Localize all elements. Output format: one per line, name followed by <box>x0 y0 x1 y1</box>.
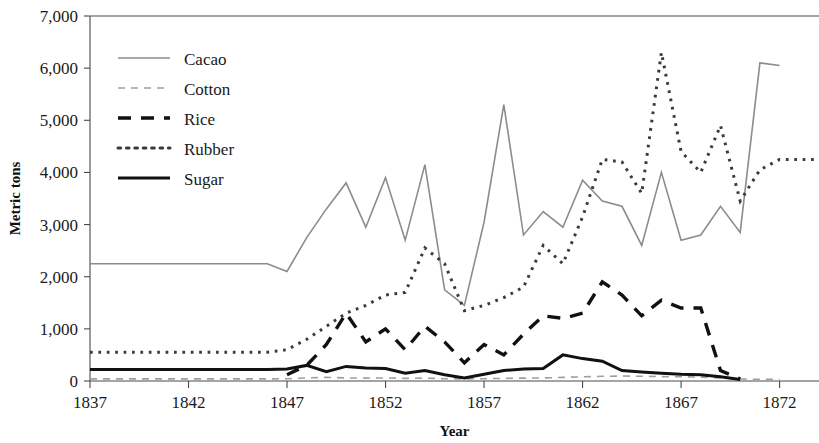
legend-label-rubber: Rubber <box>184 140 234 159</box>
legend-label-rice: Rice <box>184 110 215 129</box>
series-line-rice <box>287 282 740 379</box>
x-axis-title: Year <box>440 423 470 439</box>
y-tick-label: 4,000 <box>40 163 78 182</box>
x-tick-label: 1862 <box>566 393 600 412</box>
chart-legend: CacaoCottonRiceRubberSugar <box>118 50 234 189</box>
legend-label-cacao: Cacao <box>184 50 226 69</box>
series-rice <box>287 282 740 379</box>
y-tick-label: 0 <box>70 372 79 391</box>
x-tick-label: 1842 <box>172 393 206 412</box>
x-tick-label: 1847 <box>270 393 305 412</box>
y-axis-title: Metric tons <box>7 161 23 235</box>
y-tick-label: 7,000 <box>40 7 78 26</box>
x-tick-label: 1857 <box>467 393 502 412</box>
legend-label-cotton: Cotton <box>184 80 231 99</box>
legend-label-sugar: Sugar <box>184 170 224 189</box>
y-tick-label: 2,000 <box>40 268 78 287</box>
x-tick-label: 1837 <box>73 393 108 412</box>
y-tick-label: 1,000 <box>40 320 78 339</box>
series-line-cotton <box>90 376 780 379</box>
y-tick-label: 5,000 <box>40 111 78 130</box>
series-cotton <box>90 376 780 379</box>
chart-canvas: 01,0002,0003,0004,0005,0006,0007,0001837… <box>0 0 819 443</box>
x-tick-label: 1852 <box>369 393 403 412</box>
line-chart: 01,0002,0003,0004,0005,0006,0007,0001837… <box>0 0 819 443</box>
y-tick-label: 6,000 <box>40 59 78 78</box>
x-tick-label: 1872 <box>763 393 797 412</box>
x-tick-label: 1867 <box>664 393 699 412</box>
y-tick-label: 3,000 <box>40 216 78 235</box>
